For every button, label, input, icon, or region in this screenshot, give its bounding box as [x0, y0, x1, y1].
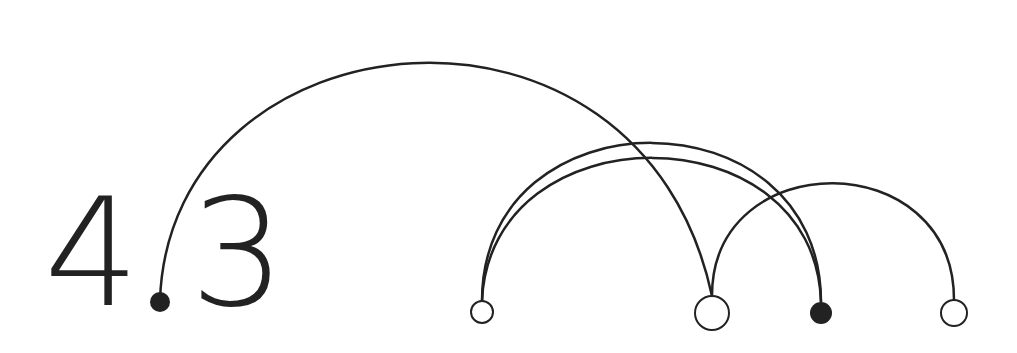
node-2: [695, 296, 729, 330]
node-dot: [150, 292, 170, 312]
arc-diagram: [0, 0, 1017, 353]
arc-double-inner: [482, 158, 821, 302]
node-4: [941, 300, 967, 326]
node-3: [810, 302, 832, 324]
arc-right: [712, 183, 954, 300]
arc-large: [160, 63, 712, 300]
node-1: [471, 301, 493, 323]
